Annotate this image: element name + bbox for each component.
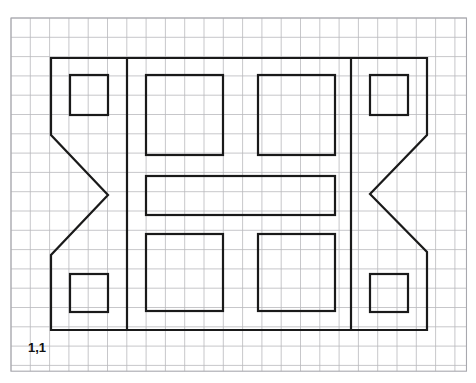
small-square-bottom-left [70,274,108,312]
large-square-bottom-right [258,234,335,311]
large-square-top-right [258,75,335,155]
grid-layer [11,18,466,371]
small-square-bottom-right [370,274,408,312]
figure-svg: 1,1 [0,0,476,383]
middle-wide-rectangle [146,176,335,215]
figure-canvas: 1,1 [0,0,476,383]
shape-layer [51,58,427,330]
origin-coordinate-label: 1,1 [28,340,46,355]
grid-border [11,18,466,371]
